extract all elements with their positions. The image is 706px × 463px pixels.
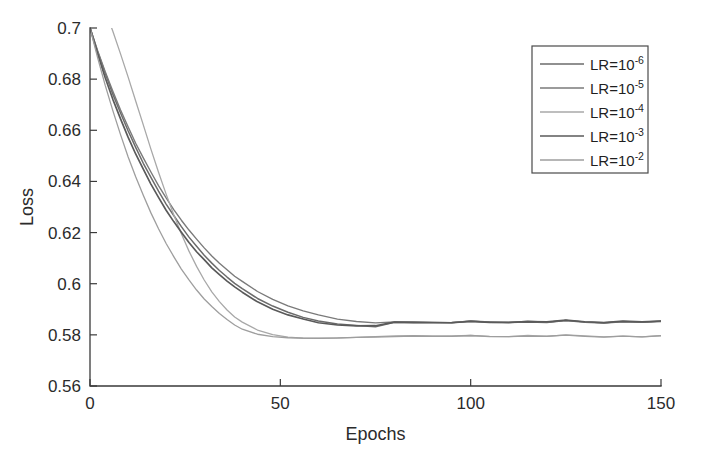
y-tick-label: 0.64	[48, 172, 81, 191]
y-tick-label: 0.56	[48, 377, 81, 396]
x-tick-label: 150	[647, 394, 675, 413]
x-tick-label: 100	[456, 394, 484, 413]
y-tick-label: 0.7	[57, 19, 81, 38]
y-tick-label: 0.68	[48, 70, 81, 89]
y-tick-label: 0.66	[48, 121, 81, 140]
loss-vs-epochs-chart: 0.560.580.60.620.640.660.680.7050100150E…	[0, 0, 706, 463]
legend: LR=10-6LR=10-5LR=10-4LR=10-3LR=10-2	[532, 46, 648, 173]
x-tick-label: 0	[85, 394, 94, 413]
y-axis-title: Loss	[17, 188, 37, 226]
x-axis-title: Epochs	[345, 424, 405, 444]
y-tick-label: 0.62	[48, 224, 81, 243]
y-tick-label: 0.58	[48, 326, 81, 345]
x-tick-label: 50	[271, 394, 290, 413]
y-tick-label: 0.6	[57, 275, 81, 294]
